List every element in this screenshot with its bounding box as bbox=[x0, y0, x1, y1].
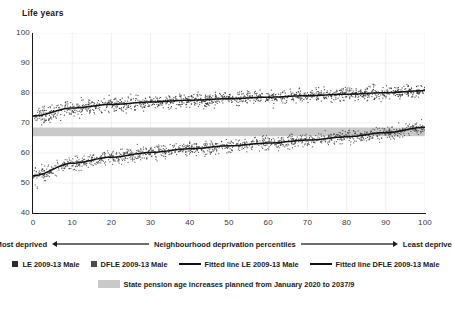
y-tick-label: 100 bbox=[4, 28, 30, 37]
x-axis-line bbox=[33, 213, 426, 214]
x-tick-label: 80 bbox=[332, 218, 362, 227]
x-tick-label: 10 bbox=[57, 218, 87, 227]
figure: Life years 405060708090100 0102030405060… bbox=[0, 0, 452, 309]
y-tick-label: 90 bbox=[4, 58, 30, 67]
legend-item[interactable]: DFLE 2009-13 Male bbox=[91, 260, 168, 269]
legend-row-band: State pension age increases planned from… bbox=[0, 278, 452, 290]
x-tick-label: 60 bbox=[253, 218, 283, 227]
y-tick-label: 60 bbox=[4, 148, 30, 157]
least-deprived-label: Least deprived bbox=[403, 240, 452, 249]
scatter-plot-canvas bbox=[33, 33, 425, 213]
legend-label: DFLE 2009-13 Male bbox=[101, 260, 168, 269]
x-tick-label: 100 bbox=[410, 218, 440, 227]
deprivation-axis-caption: Most deprived Neighbourhood deprivation … bbox=[0, 238, 452, 250]
legend-band-icon bbox=[98, 280, 120, 288]
right-arrow-icon bbox=[301, 240, 398, 248]
x-tick-label: 0 bbox=[18, 218, 48, 227]
x-axis-title: Neighbourhood deprivation percentiles bbox=[154, 240, 296, 249]
plot-area bbox=[33, 33, 425, 213]
legend-line-icon bbox=[179, 263, 201, 265]
most-deprived-label: Most deprived bbox=[0, 240, 47, 249]
x-tick-label: 30 bbox=[136, 218, 166, 227]
x-tick-label: 50 bbox=[214, 218, 244, 227]
y-tick-label: 70 bbox=[4, 118, 30, 127]
y-tick-label: 50 bbox=[4, 178, 30, 187]
legend-line-icon bbox=[310, 263, 332, 265]
legend-label: Fitted line DFLE 2009-13 Male bbox=[336, 260, 440, 269]
y-tick-label: 40 bbox=[4, 208, 30, 217]
legend-item[interactable]: LE 2009-13 Male bbox=[12, 260, 79, 269]
legend-label: Fitted line LE 2009-13 Male bbox=[205, 260, 299, 269]
legend-square-icon bbox=[91, 261, 97, 267]
legend-square-icon bbox=[12, 261, 18, 267]
legend-label: State pension age increases planned from… bbox=[124, 280, 355, 289]
legend-row-series: LE 2009-13 MaleDFLE 2009-13 MaleFitted l… bbox=[0, 258, 452, 270]
legend-item[interactable]: Fitted line DFLE 2009-13 Male bbox=[310, 260, 440, 269]
left-arrow-icon bbox=[52, 240, 149, 248]
legend-item[interactable]: State pension age increases planned from… bbox=[98, 280, 355, 289]
y-tick-label: 80 bbox=[4, 88, 30, 97]
gridlines bbox=[33, 33, 425, 213]
y-axis-line bbox=[32, 33, 33, 214]
x-tick-label: 40 bbox=[175, 218, 205, 227]
x-tick-label: 90 bbox=[371, 218, 401, 227]
x-tick-label: 20 bbox=[96, 218, 126, 227]
x-tick-label: 70 bbox=[292, 218, 322, 227]
legend-item[interactable]: Fitted line LE 2009-13 Male bbox=[179, 260, 299, 269]
legend-label: LE 2009-13 Male bbox=[22, 260, 79, 269]
